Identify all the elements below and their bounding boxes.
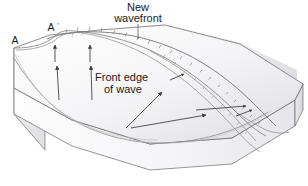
block-diagram-canvas: New wavefront Front edge of wave A A ' bbox=[0, 0, 308, 186]
label-point-a-prime-mark: ' bbox=[57, 21, 59, 30]
label-front-edge-line1: Front edge bbox=[95, 71, 148, 83]
label-new-wavefront-line2: wavefront bbox=[113, 12, 162, 24]
label-front-edge-line2: of wave bbox=[104, 83, 142, 95]
label-point-a: A bbox=[11, 34, 18, 46]
wave-refraction-diagram: New wavefront Front edge of wave A A ' bbox=[0, 0, 308, 186]
label-point-a-prime: A bbox=[47, 21, 54, 33]
